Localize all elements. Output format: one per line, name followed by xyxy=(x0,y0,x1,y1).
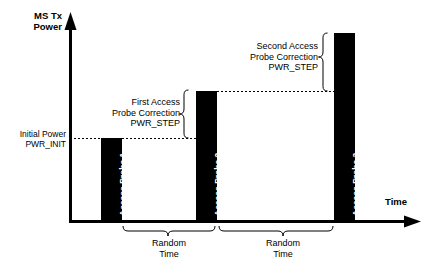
random-time-1-line2: Time xyxy=(139,249,199,260)
first-correction-brace xyxy=(180,90,189,138)
random-time-label-1: Random Time xyxy=(139,238,199,259)
first-correction-line3: PWR_STEP xyxy=(98,118,180,129)
diagram-canvas: MS Tx Power Time Initial Power PWR_INIT … xyxy=(0,0,432,277)
second-correction-line2: Probe Correction xyxy=(232,52,318,63)
y-axis-label-line1: MS Tx xyxy=(6,10,62,21)
second-correction-line3: PWR_STEP xyxy=(232,62,318,73)
second-correction-brace xyxy=(319,33,328,91)
random-time-label-2: Random Time xyxy=(253,238,313,259)
second-correction-annotation: Second Access Probe Correction PWR_STEP xyxy=(232,41,318,73)
random-time-brace-1 xyxy=(123,226,215,236)
first-correction-line2: Probe Correction xyxy=(98,108,180,119)
bar-label-access-probe-1: Access Probe 1 xyxy=(118,153,128,216)
y-axis-label: MS Tx Power xyxy=(6,10,62,32)
initial-power-line2: PWR_INIT xyxy=(2,139,66,149)
initial-power-line1: Initial Power xyxy=(2,129,66,139)
x-axis-label: Time xyxy=(385,196,407,207)
random-time-2-line2: Time xyxy=(253,249,313,260)
bar-label-access-probe-2: Access Probe 2 xyxy=(213,153,223,216)
y-axis xyxy=(65,12,77,223)
initial-power-annotation: Initial Power PWR_INIT xyxy=(2,129,66,149)
random-time-1-line1: Random xyxy=(139,238,199,249)
first-correction-line1: First Access xyxy=(98,97,180,108)
second-correction-line1: Second Access xyxy=(232,41,318,52)
random-time-2-line1: Random xyxy=(253,238,313,249)
bar-label-access-probe-3: Access Probe 3 xyxy=(351,153,361,216)
first-correction-annotation: First Access Probe Correction PWR_STEP xyxy=(98,97,180,129)
y-axis-label-line2: Power xyxy=(6,21,62,32)
random-time-brace-2 xyxy=(219,226,333,236)
